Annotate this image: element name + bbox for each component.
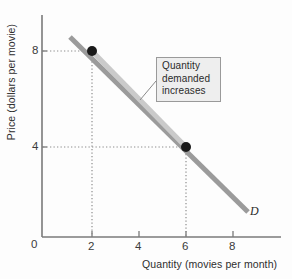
- x-tick-label-6: 6: [182, 240, 189, 252]
- x-tick-label-2: 2: [88, 240, 95, 252]
- data-point-q2-p8: [87, 46, 97, 56]
- y-axis-title: Price (dollars per movie): [5, 17, 17, 147]
- callout-line-2: demanded: [162, 73, 216, 86]
- callout-line-3: increases: [162, 85, 216, 98]
- y-tick-label-8: 8: [32, 44, 39, 56]
- chart-canvas: [0, 0, 292, 279]
- x-tick-label-4: 4: [135, 240, 142, 252]
- origin-label: 0: [31, 238, 38, 250]
- x-tick-label-8: 8: [229, 240, 236, 252]
- demand-curve-label: D: [250, 204, 259, 219]
- callout-leader-line: [140, 81, 156, 100]
- x-axis-title: Quantity (movies per month): [142, 258, 277, 270]
- y-tick-label-4: 4: [32, 140, 39, 152]
- data-point-q6-p4: [181, 142, 191, 152]
- demand-curve-figure: 0 8 4 2 4 6 8 Price (dollars per movie) …: [0, 0, 292, 279]
- quantity-demanded-increases-callout: Quantity demanded increases: [156, 57, 221, 102]
- callout-line-1: Quantity: [162, 60, 216, 73]
